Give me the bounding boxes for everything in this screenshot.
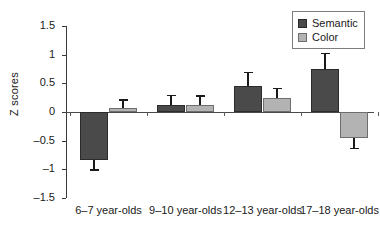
bar [340,112,368,138]
legend-label-color: Color [312,32,338,43]
x-tick [301,112,302,116]
y-tick: 0.5 [62,83,66,84]
x-category-label: 12–13 year-olds [223,204,302,216]
y-tick: 1 [62,55,66,56]
chart-figure: Z scores 1.510.50–0.5–1–1.5 6–7 year-old… [0,0,380,228]
bar [80,112,108,160]
y-tick-label: 0.5 [40,76,55,88]
y-tick-label: 1.5 [40,19,55,31]
error-bar [247,72,249,86]
error-bar-cap [350,148,359,150]
semantic-swatch-icon [298,19,307,28]
zero-line [66,112,374,113]
x-category-label: 9–10 year-olds [149,204,222,216]
y-tick: 1.5 [62,26,66,27]
plot-area: 1.510.50–0.5–1–1.5 [66,26,374,198]
legend-label-semantic: Semantic [312,18,358,29]
error-bar-cap [119,99,128,101]
bar [263,98,291,112]
y-tick: –1 [62,169,66,170]
y-axis-title: Z scores [8,54,20,134]
error-bar [93,160,95,170]
y-tick-label: 1 [49,48,55,60]
error-bar-cap [321,53,330,55]
y-tick-label: –0.5 [34,134,55,146]
y-tick-label: –1.5 [34,191,55,203]
x-tick [70,112,71,116]
y-tick: –0.5 [62,141,66,142]
error-bar-cap [167,95,176,97]
error-bar [353,138,355,148]
y-tick: –1.5 [62,198,66,199]
error-bar-cap [244,72,253,74]
color-swatch-icon [298,33,307,42]
error-bar-cap [196,95,205,97]
x-tick [224,112,225,116]
legend-item-semantic: Semantic [298,16,358,30]
x-tick [378,112,379,116]
bar [186,105,214,112]
bar [157,105,185,112]
x-category-label: 6–7 year-olds [75,204,142,216]
legend-item-color: Color [298,30,358,44]
bar [311,69,339,112]
error-bar-cap [90,169,99,171]
bar [234,86,262,112]
x-tick [147,112,148,116]
y-tick-label: 0 [49,105,55,117]
bar [109,108,137,112]
chart-legend: Semantic Color [292,11,365,49]
error-bar-cap [273,88,282,90]
y-tick-label: –1 [43,162,55,174]
x-category-label: 17–18 year-olds [300,204,379,216]
error-bar [324,53,326,69]
